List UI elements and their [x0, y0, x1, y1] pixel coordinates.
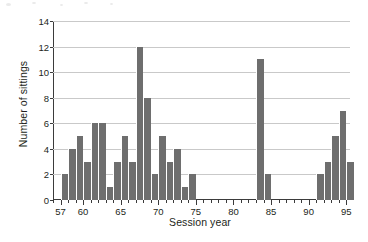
bar [136, 47, 144, 200]
x-tick-mark-major [121, 200, 122, 205]
bar [143, 98, 151, 200]
x-tick-mark-major [233, 200, 234, 205]
x-tick-mark-minor [264, 200, 265, 203]
bar [98, 123, 106, 200]
bar [181, 187, 189, 200]
x-tick-mark-major [196, 200, 197, 205]
bar [324, 162, 332, 200]
x-tick-mark-minor [136, 200, 137, 203]
x-tick-mark-minor [316, 200, 317, 203]
x-axis-title: Session year [40, 216, 360, 228]
y-tick-label: 12 [38, 41, 49, 52]
y-tick-label: 8 [44, 92, 49, 103]
x-tick-mark-minor [324, 200, 325, 203]
x-tick-mark-minor [113, 200, 114, 203]
x-tick-mark-minor [128, 200, 129, 203]
bar [346, 162, 354, 200]
bar [61, 174, 69, 200]
x-tick-mark-minor [339, 200, 340, 203]
bar [158, 136, 166, 200]
x-tick-mark-minor [256, 200, 257, 203]
bar [106, 187, 114, 200]
bar [68, 149, 76, 200]
scan-artifact [6, 3, 11, 6]
x-tick-mark-minor [173, 200, 174, 203]
bar [264, 174, 272, 200]
x-tick-mark-major [83, 200, 84, 205]
x-tick-mark-major [346, 200, 347, 205]
scan-artifact [60, 4, 63, 6]
x-tick-mark-major [271, 200, 272, 205]
bars-group [53, 21, 350, 200]
y-tick-label: 14 [38, 16, 49, 27]
x-tick-mark-major [309, 200, 310, 205]
scan-artifact [110, 3, 113, 5]
y-tick-label: 0 [44, 195, 49, 206]
x-tick-mark-minor [279, 200, 280, 203]
bar [91, 123, 99, 200]
scan-artifact [84, 2, 88, 4]
x-tick-mark-minor [68, 200, 69, 203]
x-tick-mark-minor [91, 200, 92, 203]
x-tick-mark-major [158, 200, 159, 205]
x-tick-mark-minor [226, 200, 227, 203]
x-tick-mark-minor [294, 200, 295, 203]
bar [121, 136, 129, 200]
histogram-chart: Number of sittings 02468101214 576065707… [0, 0, 368, 242]
x-tick-mark-minor [301, 200, 302, 203]
x-tick-mark-minor [98, 200, 99, 203]
scan-artifact [32, 2, 36, 4]
y-tick-label: 6 [44, 118, 49, 129]
bar [128, 162, 136, 200]
x-tick-mark-minor [181, 200, 182, 203]
bar [331, 136, 339, 200]
y-tick-label: 4 [44, 143, 49, 154]
x-tick-mark-minor [76, 200, 77, 203]
x-tick-mark-minor [106, 200, 107, 203]
x-tick-mark-minor [241, 200, 242, 203]
y-tick-label: 10 [38, 67, 49, 78]
y-tick-label: 2 [44, 169, 49, 180]
y-axis-title: Number of sittings [17, 19, 29, 189]
x-tick-mark-minor [218, 200, 219, 203]
plot-area: 02468101214 576065707580859095 [53, 21, 350, 200]
x-tick-mark-minor [203, 200, 204, 203]
x-tick-mark-minor [211, 200, 212, 203]
bar [316, 174, 324, 200]
bar [256, 59, 264, 200]
x-tick-mark-minor [143, 200, 144, 203]
x-tick-mark-minor [151, 200, 152, 203]
x-tick-mark-minor [166, 200, 167, 203]
x-tick-mark-minor [53, 200, 54, 203]
bar [83, 162, 91, 200]
bar [151, 174, 159, 200]
bar [173, 149, 181, 200]
x-tick-mark-major [61, 200, 62, 205]
bar [166, 162, 174, 200]
x-tick-mark-minor [331, 200, 332, 203]
x-tick-mark-minor [188, 200, 189, 203]
bar [76, 136, 84, 200]
bar [188, 174, 196, 200]
x-tick-mark-minor [248, 200, 249, 203]
x-tick-mark-minor [286, 200, 287, 203]
bar [339, 111, 347, 201]
bar [113, 162, 121, 200]
